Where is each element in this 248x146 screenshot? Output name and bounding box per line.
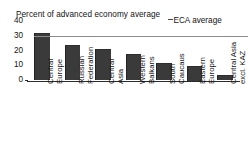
x-axis-category-label-line: Asia [117,59,126,84]
bar-chart: Percent of advanced economy average 0102… [0,0,248,146]
legend-eca-average: ECA average [168,16,222,25]
x-axis-category-label: CentralEurope [47,59,64,84]
y-axis-tick-label: 20 [3,47,23,55]
y-axis-tick-label: 0 [3,76,23,84]
x-axis-category-label: RussianFederation [78,47,95,84]
y-axis-tick-label: 10 [3,61,23,69]
x-axis-category-label: WesternBalkans [139,55,156,84]
x-axis-category-label: Central Asiaexcl. KAZ [230,42,247,84]
y-axis-tick-label: 40 [3,17,23,25]
x-axis-category-label-line: Europe [56,59,65,84]
x-axis-category-label-line: Europe [208,57,217,84]
legend-line-swatch [168,19,173,20]
x-axis-category-label-line: Caucaus [178,53,187,84]
x-axis-category-label-line: excl. KAZ [238,42,247,84]
x-axis-category-label: CentralAsia [108,59,125,84]
legend-eca-average-label: ECA average [174,16,222,25]
y-axis-tick-label: 30 [3,32,23,40]
x-axis-category-label-line: Federation [86,47,95,84]
x-axis-category-label-line: Russian [78,47,87,84]
y-axis-zero-tick-mark [25,80,28,81]
x-axis-category-label-line: Western [139,55,148,84]
x-axis-category-label: EasternEurope [199,57,216,84]
x-axis-category-label: SouthCaucaus [169,53,186,84]
eca-average-line [34,36,248,37]
x-axis-category-label-line: Balkans [147,55,156,84]
